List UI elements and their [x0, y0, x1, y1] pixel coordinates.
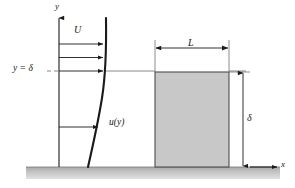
freestream-velocity-label: U [74, 25, 81, 35]
y-axis-label: y [55, 2, 59, 11]
x-axis-label: x [281, 160, 285, 169]
velocity-profile-curve [88, 18, 106, 167]
velocity-arrow-group [59, 44, 103, 127]
control-volume-block [155, 72, 229, 167]
figure-canvas [0, 0, 295, 188]
plate-length-label: L [188, 38, 194, 48]
boundary-layer-figure: y x U y = δ u(y) L δ [0, 0, 295, 188]
boundary-layer-thickness-label: δ [247, 113, 252, 123]
ground-band [26, 167, 280, 179]
velocity-profile-label: u(y) [109, 118, 124, 128]
boundary-layer-edge-label: y = δ [13, 64, 33, 74]
